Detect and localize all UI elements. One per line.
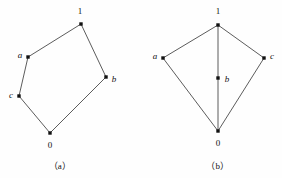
caption-a: （a） [49, 162, 72, 171]
node-1[interactable] [216, 23, 219, 26]
edge-na-nc [19, 57, 28, 96]
diagram-a-graph [0, 0, 141, 178]
edge-nb-n1 [81, 24, 106, 77]
diagram-b-nodes [161, 23, 265, 132]
node-c[interactable] [262, 56, 265, 59]
diagram-b-graph [141, 0, 282, 178]
diagram-b: 1acb0 （b） [141, 0, 282, 178]
edge-n0-nb [50, 77, 106, 133]
edge-na-n0 [163, 58, 218, 131]
node-0[interactable] [48, 131, 51, 134]
caption-b: （b） [206, 162, 229, 171]
figure-root: 1abc0 （a） 1acb0 （b） [0, 0, 282, 178]
node-b[interactable] [216, 76, 219, 79]
node-1[interactable] [79, 22, 82, 25]
edge-n1-na [163, 25, 218, 58]
node-a[interactable] [161, 56, 164, 59]
diagram-a-edges [19, 24, 106, 133]
node-0[interactable] [216, 129, 219, 132]
edge-n1-nc [218, 25, 264, 58]
edge-n1-na [28, 24, 81, 57]
edge-nc-n0 [19, 96, 50, 133]
edge-nc-n0 [218, 58, 264, 131]
node-b[interactable] [104, 75, 107, 78]
diagram-a-nodes [17, 22, 107, 134]
diagram-b-edges [163, 25, 264, 131]
node-a[interactable] [26, 55, 29, 58]
node-c[interactable] [17, 94, 20, 97]
diagram-a: 1abc0 （a） [0, 0, 141, 178]
